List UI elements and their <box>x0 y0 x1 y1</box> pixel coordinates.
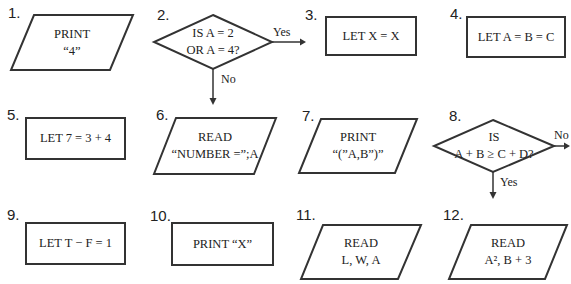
item-8-line-1: IS <box>488 129 499 146</box>
item-5-line-1: LET 7 = 3 + 4 <box>40 130 111 147</box>
item-3-line-1: LET X = X <box>342 28 399 45</box>
item-2-line-2: OR A = 4? <box>186 42 239 59</box>
item-12-parallelogram: READ A², B + 3 <box>448 224 568 280</box>
item-4-line-1: LET A = B = C <box>478 29 555 46</box>
item-8-yes-label: Yes <box>500 175 517 190</box>
item-12-line-1: READ <box>491 235 525 252</box>
item-3-rectangle: LET X = X <box>325 16 417 56</box>
item-12-line-2: A², B + 3 <box>485 252 532 269</box>
item-1-parallelogram: PRINT “4” <box>10 14 134 71</box>
item-2-line-1: IS A = 2 <box>192 25 233 42</box>
item-9-number: 9. <box>7 206 20 223</box>
item-6-parallelogram: READ “NUMBER =”;A <box>153 117 277 175</box>
item-4-number: 4. <box>450 5 463 22</box>
item-5-number: 5. <box>7 106 20 123</box>
item-11-parallelogram: READ L, W, A <box>300 224 422 280</box>
item-9-line-1: LET T − F = 1 <box>39 235 112 252</box>
item-5-rectangle: LET 7 = 3 + 4 <box>25 117 126 160</box>
item-1-line-1: PRINT <box>54 26 90 43</box>
item-12-number: 12. <box>443 206 464 223</box>
item-6-line-1: READ <box>198 129 232 146</box>
item-1-line-2: “4” <box>63 43 80 60</box>
item-2-no-label: No <box>221 72 236 87</box>
item-4-rectangle: LET A = B = C <box>466 16 566 58</box>
item-11-line-1: READ <box>344 235 378 252</box>
item-11-number: 11. <box>296 206 316 223</box>
item-6-line-2: “NUMBER =”;A <box>171 146 258 163</box>
item-8-no-label: No <box>554 128 569 143</box>
item-7-line-2: “(”A,B”)” <box>332 146 383 163</box>
item-11-line-2: L, W, A <box>342 252 381 269</box>
item-7-parallelogram: PRINT “(”A,B”)” <box>298 118 418 174</box>
item-10-number: 10. <box>150 207 171 224</box>
item-2-decision-diamond: IS A = 2 OR A = 4? <box>153 14 273 70</box>
item-7-line-1: PRINT <box>340 129 376 146</box>
item-2-yes-label: Yes <box>273 25 290 40</box>
item-8-line-2: A + B ≥ C + D? <box>454 146 533 163</box>
item-9-rectangle: LET T − F = 1 <box>25 222 126 265</box>
item-8-decision-diamond: IS A + B ≥ C + D? <box>433 119 555 173</box>
item-10-line-1: PRINT “X” <box>193 236 252 253</box>
item-10-rectangle: PRINT “X” <box>171 222 274 266</box>
item-3-number: 3. <box>305 6 318 23</box>
